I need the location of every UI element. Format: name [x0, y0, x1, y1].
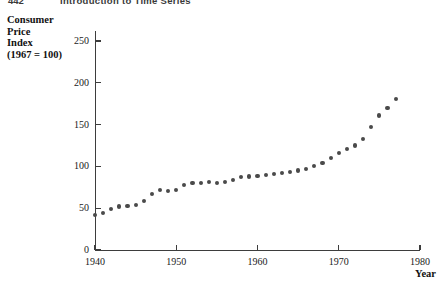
x-tick-mark: [419, 245, 420, 250]
data-point: [150, 192, 154, 196]
data-point: [361, 137, 365, 141]
x-tick-mark: [94, 245, 95, 250]
data-point: [296, 168, 300, 172]
data-point: [369, 125, 373, 129]
y-tick-mark: [96, 40, 101, 41]
x-axis-line: [95, 250, 420, 251]
data-point: [215, 181, 219, 185]
data-point: [101, 211, 105, 215]
y-tick-label: 50: [63, 202, 89, 213]
data-point: [280, 171, 284, 175]
y-tick-mark: [96, 82, 101, 83]
y-tick-mark: [96, 249, 101, 250]
data-point: [93, 213, 97, 217]
data-point: [377, 113, 381, 117]
y-tick-label: 0: [63, 244, 89, 255]
data-point: [288, 170, 292, 174]
x-tick-mark: [338, 245, 339, 250]
x-tick-label: 1970: [319, 256, 359, 267]
x-tick-label: 1960: [238, 256, 278, 267]
data-point: [239, 175, 243, 179]
y-tick-label: 200: [63, 77, 89, 88]
y-tick-mark: [96, 124, 101, 125]
data-point: [329, 156, 333, 160]
data-point: [109, 207, 113, 211]
x-tick-mark: [176, 245, 177, 250]
y-axis-line: [95, 31, 96, 251]
data-point: [320, 161, 324, 165]
x-tick-label: 1950: [156, 256, 196, 267]
data-point: [190, 181, 194, 185]
data-point: [272, 172, 276, 176]
x-tick-label: 1980: [400, 256, 440, 267]
data-point: [182, 183, 186, 187]
plot-area: 050100150200250 19401950196019701980: [0, 0, 444, 290]
data-point: [231, 178, 235, 182]
data-point: [385, 106, 389, 110]
data-point: [353, 143, 357, 147]
data-point: [125, 204, 129, 208]
data-point: [158, 188, 162, 192]
data-point: [394, 97, 398, 101]
data-point: [134, 203, 138, 207]
data-point: [207, 180, 211, 184]
x-axis-label: Year: [415, 268, 436, 279]
data-point: [247, 174, 251, 178]
y-tick-label: 100: [63, 160, 89, 171]
x-tick-label: 1940: [75, 256, 115, 267]
y-tick-label: 150: [63, 119, 89, 130]
data-point: [142, 199, 146, 203]
data-point: [223, 180, 227, 184]
data-point: [255, 174, 259, 178]
data-point: [345, 147, 349, 151]
data-point: [264, 173, 268, 177]
data-point: [199, 181, 203, 185]
data-point: [337, 151, 341, 155]
y-tick-mark: [96, 166, 101, 167]
data-point: [166, 189, 170, 193]
data-point: [304, 167, 308, 171]
data-point: [117, 204, 121, 208]
figure: 442 Introduction to Time Series Consumer…: [0, 0, 444, 290]
data-point: [312, 164, 316, 168]
y-tick-label: 250: [63, 35, 89, 46]
y-tick-mark: [96, 208, 101, 209]
x-tick-mark: [257, 245, 258, 250]
data-point: [174, 188, 178, 192]
